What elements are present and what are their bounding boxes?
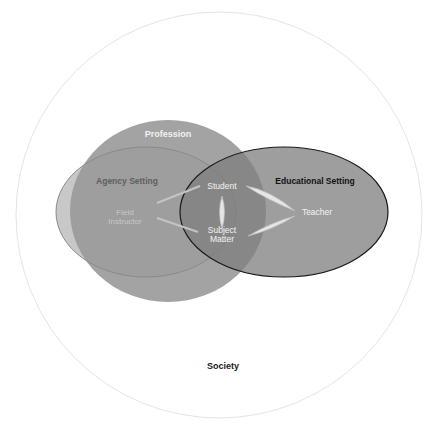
subject-matter-label-line2: Matter: [210, 234, 234, 244]
educational-setting-ellipse: [180, 147, 388, 277]
teacher-label: Teacher: [302, 207, 332, 217]
profession-label: Profession: [145, 129, 192, 139]
society-label: Society: [207, 361, 239, 371]
field-instructor-label-line2: Instructor: [108, 217, 142, 226]
educational-setting-label: Educational Setting: [275, 176, 354, 186]
student-label: Student: [207, 181, 237, 191]
agency-setting-label: Agency Setting: [96, 176, 158, 186]
field-instructor-label-line1: Field: [116, 208, 133, 217]
venn-diagram: Profession Agency Setting Educational Se…: [0, 0, 439, 429]
